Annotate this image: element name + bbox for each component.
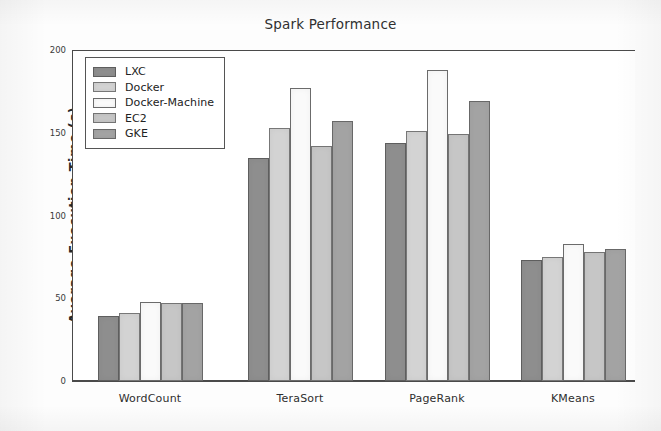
bar-terasort-lxc [248,158,269,381]
legend-item-label: Docker-Machine [125,96,214,109]
bar-pagerank-lxc [385,143,406,381]
legend-swatch-icon [93,82,116,92]
bar-kmeans-lxc [521,260,542,381]
bar-kmeans-docker [542,257,563,381]
bar-kmeans-ec2 [584,252,605,381]
x-tick-label-wordcount: WordCount [90,392,210,405]
chart-legend: LXCDockerDocker-MachineEC2GKE [85,57,225,149]
bar-wordcount-ec2 [161,303,182,381]
legend-item-label: GKE [125,127,148,140]
bar-terasort-ec2 [311,146,332,381]
x-tick-label-kmeans: KMeans [513,392,633,405]
y-tick-label: 150 [32,128,66,138]
bar-terasort-docker [269,128,290,381]
bar-wordcount-gke [182,303,203,381]
y-tick-label: 50 [32,293,66,303]
legend-item-label: Docker [125,81,164,94]
y-tick-label: 200 [32,45,66,55]
bar-wordcount-lxc [98,316,119,381]
bar-group-terasort [248,50,353,381]
legend-swatch-icon [93,67,116,77]
legend-swatch-icon [93,98,116,108]
legend-item-gke[interactable]: GKE [93,126,214,142]
bar-group-kmeans [521,50,626,381]
legend-item-docker[interactable]: Docker [93,80,214,96]
legend-item-label: LXC [125,65,146,78]
y-tick-label: 0 [32,376,66,386]
legend-swatch-icon [93,129,116,139]
bar-terasort-docker-machine [290,88,311,381]
bar-pagerank-docker [406,131,427,381]
chart-figure: Spark Performance Average Execution Time… [0,0,661,431]
bar-terasort-gke [332,121,353,381]
legend-item-lxc[interactable]: LXC [93,64,214,80]
chart-title: Spark Performance [0,16,661,32]
legend-item-docker-machine[interactable]: Docker-Machine [93,95,214,111]
bar-group-pagerank [385,50,490,381]
bar-kmeans-docker-machine [563,244,584,381]
legend-item-ec2[interactable]: EC2 [93,111,214,127]
bar-pagerank-ec2 [448,134,469,381]
legend-item-label: EC2 [125,112,147,125]
y-tick-label: 100 [32,211,66,221]
x-tick-label-pagerank: PageRank [377,392,497,405]
bar-wordcount-docker-machine [140,302,161,381]
legend-swatch-icon [93,113,116,123]
bar-pagerank-gke [469,101,490,381]
bar-kmeans-gke [605,249,626,381]
x-tick-label-terasort: TeraSort [240,392,360,405]
bar-pagerank-docker-machine [427,70,448,381]
bar-wordcount-docker [119,313,140,381]
